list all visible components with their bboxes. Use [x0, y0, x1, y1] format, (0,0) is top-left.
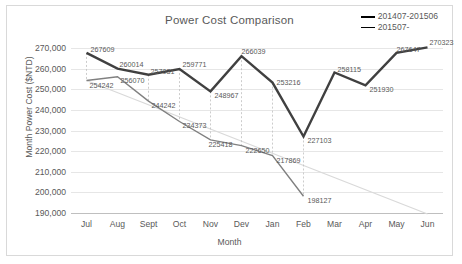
- x-axis-tick-label: Sept: [140, 219, 158, 229]
- x-axis-tick-label: Jul: [81, 219, 92, 229]
- x-axis-tick-label: Feb: [296, 219, 311, 229]
- data-label: 267609: [91, 44, 115, 53]
- x-axis-tick-label: Oct: [173, 219, 186, 229]
- data-label: 251930: [370, 85, 394, 94]
- gridline: [71, 213, 443, 214]
- x-axis-tick-label: Jun: [421, 219, 435, 229]
- legend-label-series-1: 201407-201506: [378, 11, 438, 22]
- data-label: 198127: [308, 196, 332, 205]
- y-axis-tick-label: 220,000: [35, 146, 66, 156]
- series-line-2: [87, 77, 304, 197]
- data-label: 234373: [183, 121, 207, 130]
- data-label: 217869: [277, 155, 301, 164]
- y-axis-tick-label: 230,000: [35, 126, 66, 136]
- x-axis-tick-label: Nov: [203, 219, 218, 229]
- data-label: 248967: [215, 91, 239, 100]
- x-axis-tick-label: Mar: [327, 219, 342, 229]
- x-axis-tick-label: May: [388, 219, 404, 229]
- data-label: 254242: [90, 80, 114, 89]
- x-axis-title: Month: [7, 237, 452, 247]
- data-label: 270323: [430, 38, 454, 47]
- data-label: 227103: [308, 136, 332, 145]
- data-label: 257031: [151, 66, 175, 75]
- chart-legend: 201407-201506 201507-: [361, 11, 438, 33]
- plot-area: 270,000260,000250,000240,000230,000220,0…: [71, 48, 443, 213]
- legend-label-series-2: 201507-: [378, 22, 410, 33]
- y-axis-tick-label: 240,000: [35, 105, 66, 115]
- x-axis-tick-label: Dev: [234, 219, 249, 229]
- y-axis-title: Month Power Cost ($NTD): [24, 32, 34, 182]
- data-label: 225418: [209, 139, 233, 148]
- x-axis-tick-label: Aug: [110, 219, 125, 229]
- data-label: 267647: [397, 44, 421, 53]
- x-axis-tick-label: Jan: [266, 219, 280, 229]
- legend-swatch-icon: [361, 27, 375, 28]
- y-axis-tick-label: 190,000: [35, 208, 66, 218]
- x-axis-tick-label: Apr: [359, 219, 372, 229]
- y-axis-tick-label: 210,000: [35, 167, 66, 177]
- legend-item-series-2: 201507-: [361, 22, 438, 33]
- y-axis-tick-label: 270,000: [35, 43, 66, 53]
- series-lines: [71, 48, 443, 213]
- legend-swatch-icon: [361, 16, 375, 18]
- data-label: 266039: [242, 47, 266, 56]
- data-label: 259771: [183, 60, 207, 69]
- y-axis-tick-label: 200,000: [35, 187, 66, 197]
- data-label: 260014: [120, 59, 144, 68]
- data-label: 222650: [246, 145, 270, 154]
- chart-container: Power Cost Comparison 201407-201506 2015…: [6, 5, 453, 256]
- data-label: 258115: [338, 64, 361, 73]
- data-label: 244242: [152, 101, 176, 110]
- y-axis-tick-label: 250,000: [35, 84, 66, 94]
- legend-item-series-1: 201407-201506: [361, 11, 438, 22]
- y-axis-tick-label: 260,000: [35, 64, 66, 74]
- data-label: 256070: [121, 75, 145, 84]
- data-label: 253216: [277, 77, 301, 86]
